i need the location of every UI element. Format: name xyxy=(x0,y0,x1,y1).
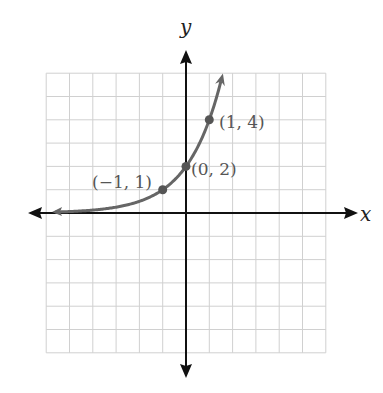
x-axis-left-arrow-icon xyxy=(28,207,42,219)
data-point xyxy=(182,162,191,171)
y-axis-label: y xyxy=(179,15,192,39)
point-label-neg1-1: (−1, 1) xyxy=(92,172,152,192)
exponential-curve xyxy=(56,81,221,212)
x-axis-right-arrow-icon xyxy=(344,207,358,219)
point-label-0-2: (0, 2) xyxy=(191,159,237,179)
x-axis xyxy=(28,207,358,219)
y-axis-up-arrow-icon xyxy=(180,50,192,64)
y-axis-down-arrow-icon xyxy=(180,364,192,378)
x-axis-label: x xyxy=(360,202,371,226)
data-point xyxy=(158,185,167,194)
point-label-1-4: (1, 4) xyxy=(219,112,265,132)
graph: y x (−1, 1) (0, 2) (1, 4) xyxy=(0,0,383,393)
data-point xyxy=(205,115,214,124)
